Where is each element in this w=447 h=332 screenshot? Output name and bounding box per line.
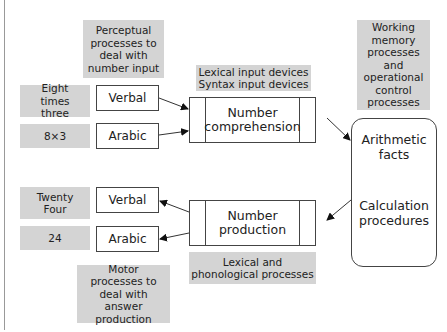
arrow-central-to-production bbox=[327, 200, 351, 220]
arrow-production-to-arabic bbox=[160, 233, 189, 239]
arrow-verbal-to-comprehension bbox=[159, 98, 188, 109]
arrow-arabic-to-comprehension bbox=[159, 131, 188, 135]
arrow-comprehension-to-central bbox=[327, 118, 350, 140]
arrow-production-to-verbal bbox=[160, 201, 189, 212]
arrows-layer bbox=[0, 0, 447, 332]
